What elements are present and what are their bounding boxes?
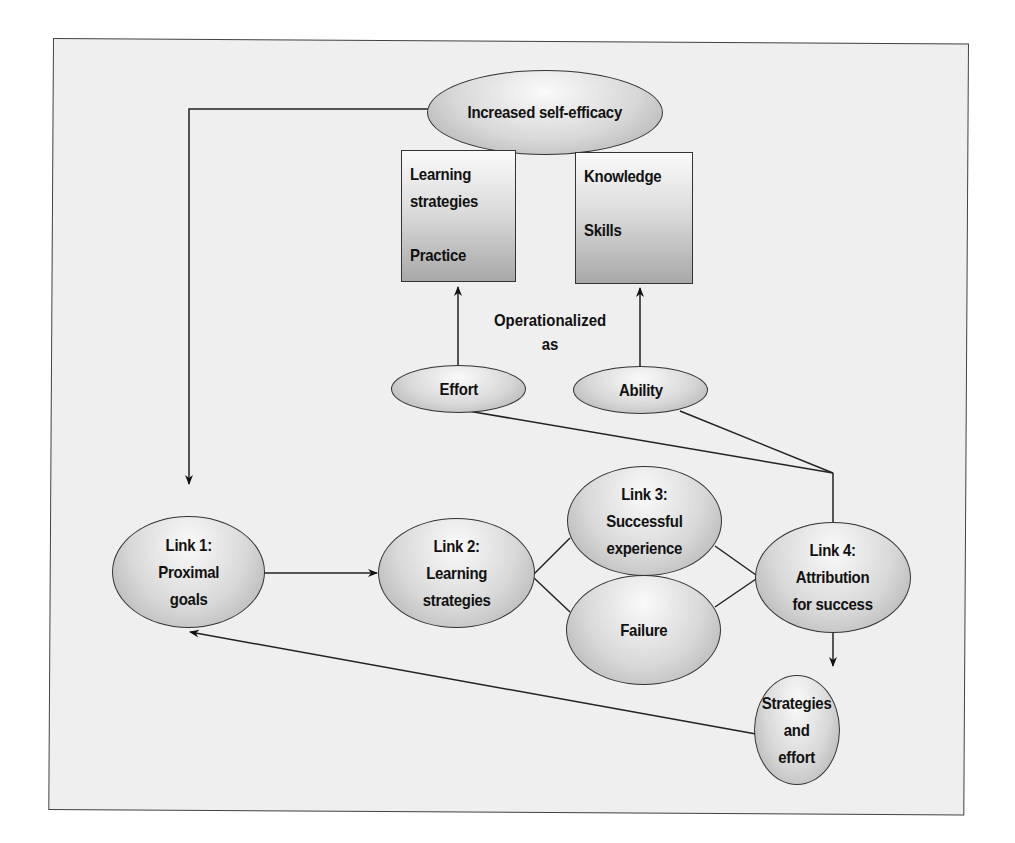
node-effort: Effort	[391, 365, 526, 413]
node-link2-learning-strategies: Link 2: Learning strategies	[378, 518, 535, 628]
node-strategies-and-effort: Strategies and effort	[754, 675, 840, 785]
line-failure-to-link4	[715, 579, 756, 607]
operationalized-as-label: Operationalized as	[480, 309, 621, 357]
line-link2-to-failure	[534, 578, 570, 612]
node-learning-strategies-practice-box: Learning strategies Practice	[401, 150, 516, 282]
arrow-self-efficacy-to-link1	[189, 109, 428, 484]
node-knowledge-skills-box: Knowledge Skills	[575, 152, 693, 284]
node-failure: Failure	[566, 575, 721, 685]
line-link2-to-link3	[534, 538, 570, 574]
node-link3-successful-experience: Link 3: Successful experience	[567, 466, 722, 576]
node-link4-attribution-for-success: Link 4: Attribution for success	[755, 522, 911, 633]
line-link3-to-link4	[715, 546, 756, 575]
node-ability: Ability	[573, 366, 708, 414]
line-ability-to-link4	[680, 411, 833, 473]
node-increased-self-efficacy: Increased self-efficacy	[427, 70, 663, 155]
line-effort-to-link4	[468, 411, 833, 473]
node-link1-proximal-goals: Link 1: Proximal goals	[112, 516, 265, 628]
